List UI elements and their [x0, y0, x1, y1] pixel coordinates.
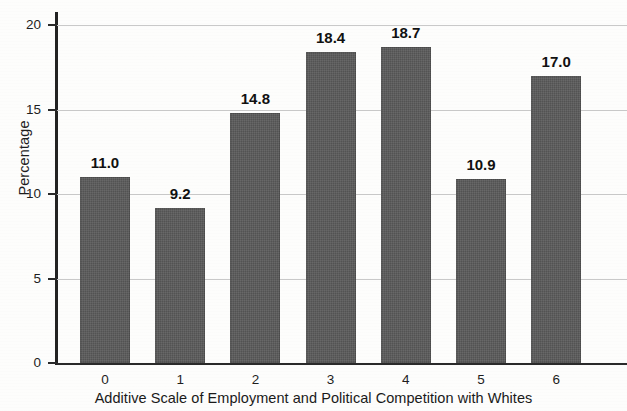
x-axis-baseline — [57, 363, 627, 365]
bar — [531, 76, 581, 363]
y-tick-mark — [48, 278, 57, 280]
x-tick-label: 0 — [75, 373, 135, 387]
gridline — [57, 25, 627, 26]
bar-chart: Percentage 0510152011.009.2114.8218.4318… — [0, 0, 627, 411]
bar-value-label: 17.0 — [516, 54, 596, 69]
y-tick-label: 10 — [9, 187, 41, 201]
y-tick-label: 0 — [9, 356, 41, 370]
bar — [80, 177, 130, 363]
y-tick-mark — [48, 24, 57, 26]
x-tick-label: 2 — [225, 373, 285, 387]
x-tick-label: 4 — [376, 373, 436, 387]
x-tick-label: 6 — [526, 373, 586, 387]
plot-area: 0510152011.009.2114.8218.4318.7410.9517.… — [57, 14, 627, 363]
bar-value-label: 18.7 — [366, 25, 446, 40]
bar-value-label: 14.8 — [215, 91, 295, 106]
y-tick-mark — [48, 109, 57, 111]
y-tick-label: 20 — [9, 18, 41, 32]
y-tick-label: 5 — [9, 272, 41, 286]
y-tick-mark — [48, 362, 57, 364]
bar — [381, 47, 431, 363]
bar-value-label: 10.9 — [441, 157, 521, 172]
x-tick-label: 1 — [150, 373, 210, 387]
x-axis-title: Additive Scale of Employment and Politic… — [0, 390, 627, 406]
y-tick-label: 15 — [9, 103, 41, 117]
bar-value-label: 18.4 — [291, 30, 371, 45]
bar — [230, 113, 280, 363]
bar — [456, 179, 506, 363]
x-tick-label: 5 — [451, 373, 511, 387]
x-tick-label: 3 — [301, 373, 361, 387]
y-tick-mark — [48, 193, 57, 195]
bar-value-label: 11.0 — [65, 155, 145, 170]
bar-value-label: 9.2 — [140, 186, 220, 201]
bar — [306, 52, 356, 363]
bar — [155, 208, 205, 363]
